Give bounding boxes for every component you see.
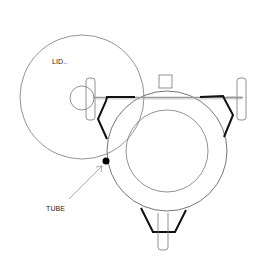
tube-dot	[103, 158, 110, 165]
tube-arrow-line	[69, 166, 102, 199]
lid-tube-diagram: LID.. TUBE	[0, 0, 267, 271]
tube-label: TUBE	[46, 205, 65, 212]
lid-hub-circle	[70, 86, 94, 110]
top-block	[159, 75, 172, 88]
lid-label: LID..	[52, 58, 67, 65]
body-outer-circle	[107, 91, 227, 211]
bottom-bracket	[141, 208, 186, 232]
